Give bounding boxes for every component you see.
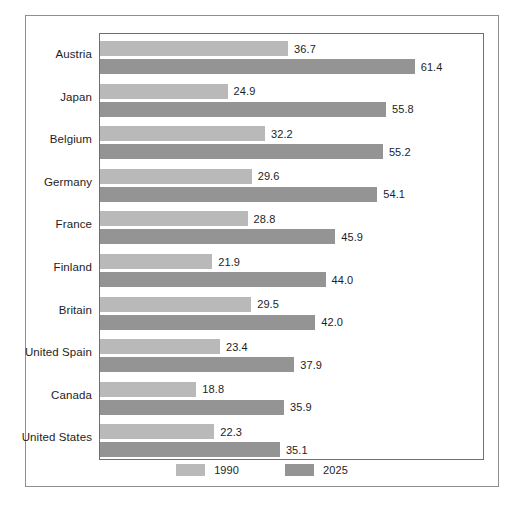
bar-2025[interactable] [100, 229, 335, 244]
bar-2025[interactable] [100, 102, 386, 117]
bar-group: Austria36.761.4 [100, 37, 483, 80]
bar-1990[interactable] [100, 297, 251, 312]
bar-value-label: 44.0 [332, 274, 354, 286]
legend-item-1990[interactable]: 1990 [176, 464, 239, 476]
bar-value-label: 18.8 [202, 383, 224, 395]
chart-legend: 19902025 [25, 464, 499, 476]
bar-1990[interactable] [100, 254, 212, 269]
bar-group: Japan24.955.8 [100, 80, 483, 123]
bar-value-label: 21.9 [218, 256, 240, 268]
bar-group: United States22.335.1 [100, 420, 483, 463]
bar-value-label: 54.1 [383, 188, 405, 200]
category-label: Japan [0, 91, 92, 103]
bar-group: Canada18.835.9 [100, 378, 483, 421]
bar-1990[interactable] [100, 424, 214, 439]
bar-2025[interactable] [100, 315, 315, 330]
bar-1990[interactable] [100, 169, 252, 184]
bar-value-label: 45.9 [341, 231, 363, 243]
category-label: Germany [0, 176, 92, 188]
bar-1990[interactable] [100, 84, 228, 99]
bar-1990[interactable] [100, 126, 265, 141]
bar-value-label: 32.2 [271, 128, 293, 140]
category-label: Britain [0, 304, 92, 316]
legend-swatch-icon [285, 464, 314, 476]
bar-1990[interactable] [100, 211, 248, 226]
bar-value-label: 35.1 [286, 444, 308, 456]
bar-value-label: 55.2 [389, 146, 411, 158]
bar-value-label: 23.4 [226, 341, 248, 353]
bar-2025[interactable] [100, 400, 284, 415]
bar-value-label: 29.6 [258, 170, 280, 182]
bar-2025[interactable] [100, 442, 280, 457]
chart-figure: Austria36.761.4Japan24.955.8Belgium32.25… [0, 0, 521, 511]
bar-value-label: 22.3 [220, 426, 242, 438]
category-label: Finland [0, 261, 92, 273]
bar-value-label: 28.8 [254, 213, 276, 225]
bar-group: Belgium32.255.2 [100, 122, 483, 165]
category-label: Belgium [0, 133, 92, 145]
bar-2025[interactable] [100, 59, 415, 74]
category-label: France [0, 218, 92, 230]
legend-item-2025[interactable]: 2025 [285, 464, 348, 476]
bars-container: Austria36.761.4Japan24.955.8Belgium32.25… [100, 34, 483, 459]
bar-1990[interactable] [100, 382, 196, 397]
bar-group: Britain29.542.0 [100, 293, 483, 336]
bar-value-label: 35.9 [290, 401, 312, 413]
bar-group: Germany29.654.1 [100, 165, 483, 208]
bar-value-label: 29.5 [257, 298, 279, 310]
category-label: United States [0, 431, 92, 443]
bar-1990[interactable] [100, 41, 288, 56]
bar-2025[interactable] [100, 357, 294, 372]
bar-value-label: 37.9 [300, 359, 322, 371]
bar-1990[interactable] [100, 339, 220, 354]
category-label: United Spain [0, 346, 92, 358]
bar-2025[interactable] [100, 272, 326, 287]
legend-swatch-icon [176, 464, 205, 476]
bar-2025[interactable] [100, 187, 377, 202]
bar-2025[interactable] [100, 144, 383, 159]
legend-label: 1990 [214, 464, 239, 476]
bar-value-label: 24.9 [234, 85, 256, 97]
bar-value-label: 55.8 [392, 103, 414, 115]
legend-label: 2025 [323, 464, 348, 476]
bar-value-label: 42.0 [321, 316, 343, 328]
bar-value-label: 61.4 [421, 61, 443, 73]
bar-group: France28.845.9 [100, 207, 483, 250]
category-label: Canada [0, 389, 92, 401]
bar-group: Finland21.944.0 [100, 250, 483, 293]
category-label: Austria [0, 48, 92, 60]
bar-value-label: 36.7 [294, 43, 316, 55]
bar-group: United Spain23.437.9 [100, 335, 483, 378]
plot-area: Austria36.761.4Japan24.955.8Belgium32.25… [99, 33, 484, 460]
